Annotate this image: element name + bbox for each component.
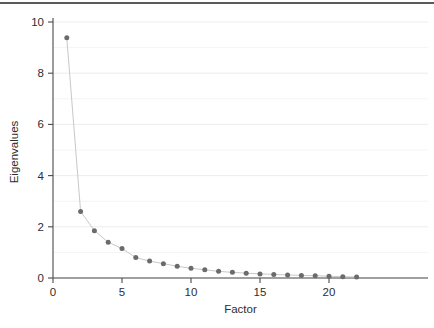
data-point-factor-4 bbox=[106, 240, 111, 245]
y-tick-label-6: 6 bbox=[38, 118, 44, 130]
x-tick-label-0: 0 bbox=[50, 286, 56, 298]
y-tick-label-2: 2 bbox=[38, 221, 44, 233]
data-point-factor-19 bbox=[313, 273, 318, 278]
x-axis-title: Factor bbox=[224, 303, 257, 315]
data-point-factor-8 bbox=[161, 261, 166, 266]
eigenvalue-series-markers bbox=[64, 35, 359, 279]
data-point-factor-12 bbox=[216, 269, 221, 274]
data-point-factor-5 bbox=[120, 246, 125, 251]
data-point-factor-1 bbox=[64, 35, 69, 40]
data-point-factor-3 bbox=[92, 228, 97, 233]
x-axis-tick-labels: 05101520 bbox=[50, 286, 336, 298]
data-point-factor-6 bbox=[133, 255, 138, 260]
data-point-factor-18 bbox=[299, 273, 304, 278]
x-tick-label-5: 5 bbox=[119, 286, 125, 298]
data-point-factor-13 bbox=[230, 270, 235, 275]
data-point-factor-16 bbox=[271, 272, 276, 277]
y-axis-title: Eigenvalues bbox=[8, 120, 20, 183]
data-point-factor-15 bbox=[258, 271, 263, 276]
data-point-factor-14 bbox=[244, 271, 249, 276]
data-point-factor-22 bbox=[354, 274, 359, 279]
y-tick-label-4: 4 bbox=[38, 170, 45, 182]
x-tick-label-15: 15 bbox=[254, 286, 267, 298]
y-axis-ticks-group bbox=[48, 22, 53, 278]
data-point-factor-9 bbox=[175, 264, 180, 269]
data-point-factor-2 bbox=[78, 209, 83, 214]
y-axis-tick-labels: 0246810 bbox=[31, 16, 44, 284]
x-tick-label-20: 20 bbox=[323, 286, 336, 298]
x-tick-label-10: 10 bbox=[185, 286, 198, 298]
chart-canvas: 0246810 05101520 Eigenvalues Factor bbox=[0, 0, 434, 328]
data-point-factor-20 bbox=[327, 274, 332, 279]
gridlines-group bbox=[53, 22, 428, 278]
data-point-factor-17 bbox=[285, 272, 290, 277]
scree-plot-figure: 0246810 05101520 Eigenvalues Factor bbox=[0, 0, 434, 328]
y-tick-label-0: 0 bbox=[38, 272, 44, 284]
x-axis-ticks-group bbox=[53, 278, 329, 283]
data-point-factor-7 bbox=[147, 259, 152, 264]
data-point-factor-10 bbox=[189, 266, 194, 271]
y-tick-label-8: 8 bbox=[38, 67, 44, 79]
data-point-factor-11 bbox=[202, 267, 207, 272]
data-point-factor-21 bbox=[340, 274, 345, 279]
y-tick-label-10: 10 bbox=[31, 16, 44, 28]
